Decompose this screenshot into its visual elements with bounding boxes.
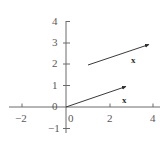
x-axis-ticks: [22, 104, 153, 108]
y-tick-label-2: 2: [52, 58, 58, 69]
axes-group: [9, 21, 160, 133]
vector-label-x-translated: x: [131, 56, 136, 65]
vector-x-translated: [88, 45, 149, 66]
y-tick-label--1: −1: [48, 123, 60, 134]
y-tick-label-3: 3: [52, 37, 58, 48]
x-tick-label--2: −2: [15, 113, 27, 124]
y-tick-label-4: 4: [52, 16, 58, 27]
vector-plot-figure: 4 3 2 1 0 −1 −2 0 2 4 x x: [0, 0, 168, 145]
x-tick-label-2: 2: [107, 113, 113, 124]
x-tick-label-0: 0: [68, 113, 74, 124]
vector-label-x-origin: x: [122, 96, 127, 105]
y-tick-label-1: 1: [52, 80, 58, 91]
y-tick-label-0: 0: [52, 101, 58, 112]
vectors-group: [66, 45, 149, 108]
x-tick-label-4: 4: [150, 113, 156, 124]
vector-x-origin: [66, 87, 126, 108]
